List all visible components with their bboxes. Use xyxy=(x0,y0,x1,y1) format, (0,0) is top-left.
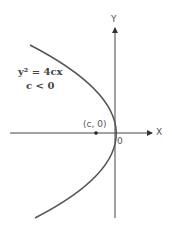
focus-label: (c, 0) xyxy=(83,119,106,129)
origin-label: 0 xyxy=(117,136,123,146)
focus-point xyxy=(94,131,98,135)
equation-label: y² = 4cx xyxy=(18,66,63,77)
x-axis-label: X xyxy=(156,127,162,137)
condition-label: c < 0 xyxy=(26,80,54,91)
y-axis-label: Y xyxy=(111,14,117,24)
parabola-diagram xyxy=(0,0,172,226)
